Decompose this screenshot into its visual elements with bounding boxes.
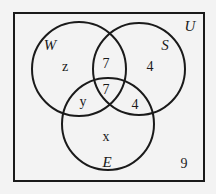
region-e-only: x bbox=[103, 129, 110, 144]
venn-diagram: U W S E z 7 4 7 y 4 x 9 bbox=[0, 0, 216, 194]
region-w-only: z bbox=[62, 59, 68, 74]
region-outside: 9 bbox=[181, 156, 188, 171]
set-label-w: W bbox=[44, 37, 58, 53]
region-s-only: 4 bbox=[147, 59, 154, 74]
set-label-e: E bbox=[101, 154, 111, 170]
region-w-s-e: 7 bbox=[103, 82, 110, 97]
universe-label: U bbox=[185, 18, 197, 34]
region-w-e: y bbox=[80, 94, 87, 109]
region-s-e: 4 bbox=[132, 97, 139, 112]
region-w-s: 7 bbox=[103, 56, 110, 71]
set-label-s: S bbox=[161, 37, 169, 53]
